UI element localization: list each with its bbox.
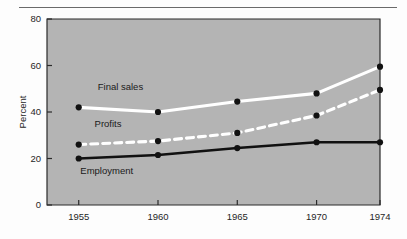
data-point-marker [313, 112, 319, 118]
plot-area-background [47, 19, 380, 205]
data-point-marker [234, 130, 240, 136]
data-point-marker [377, 64, 383, 70]
x-tick-label: 1960 [147, 211, 168, 222]
y-tick-label: 0 [36, 199, 41, 210]
data-point-marker [155, 152, 161, 158]
y-tick-label: 80 [30, 13, 41, 24]
x-tick-label: 1974 [369, 211, 390, 222]
data-point-marker [377, 87, 383, 93]
data-point-marker [76, 104, 82, 110]
x-tick-label: 1970 [306, 211, 327, 222]
y-tick-label: 20 [30, 153, 41, 164]
line-chart: 020406080 19551960196519701974 Percent F… [0, 0, 407, 239]
series-label-profits: Profits [95, 118, 122, 129]
data-point-marker [155, 109, 161, 115]
x-tick-label: 1965 [227, 211, 248, 222]
series-label-final-sales: Final sales [98, 81, 144, 92]
x-tick-label: 1955 [68, 211, 89, 222]
data-point-marker [76, 155, 82, 161]
data-point-marker [234, 98, 240, 104]
y-tick-label: 60 [30, 60, 41, 71]
y-tick-label: 40 [30, 106, 41, 117]
figure-container: 020406080 19551960196519701974 Percent F… [0, 0, 407, 239]
series-label-employment: Employment [80, 165, 133, 176]
data-point-marker [377, 139, 383, 145]
data-point-marker [313, 90, 319, 96]
y-axis-title: Percent [17, 95, 28, 128]
data-point-marker [234, 145, 240, 151]
chart-canvas: 020406080 19551960196519701974 Percent F… [0, 0, 407, 239]
data-point-marker [313, 139, 319, 145]
data-point-marker [155, 138, 161, 144]
data-point-marker [76, 141, 82, 147]
